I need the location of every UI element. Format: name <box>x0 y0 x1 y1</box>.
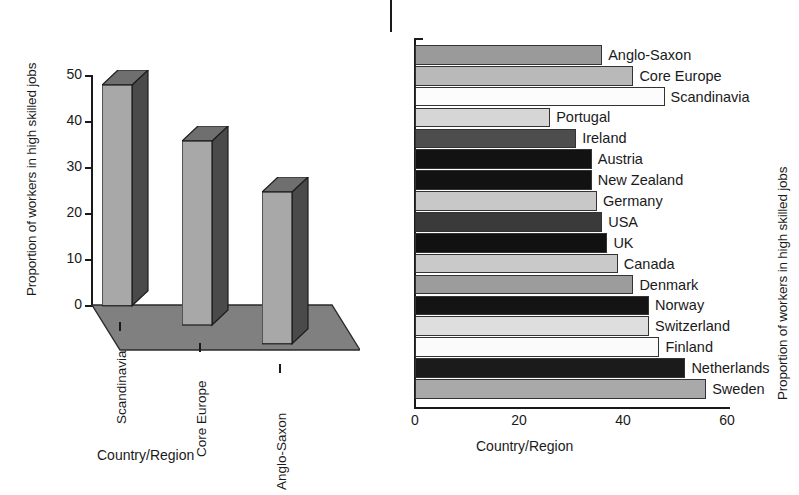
left-chart-category-label: Core Europe <box>194 380 209 457</box>
right-chart-bar <box>415 170 592 190</box>
left-bar-chart-3d: Proportion of workers in high skilled jo… <box>0 0 390 495</box>
right-chart-bar-label: Denmark <box>635 276 698 292</box>
right-chart-bar-label: Canada <box>620 255 675 271</box>
right-chart-bar <box>415 316 649 336</box>
right-chart-bar-label: Anglo-Saxon <box>604 47 691 63</box>
left-chart-bar-front-face <box>262 192 292 344</box>
left-chart-y-tick-mark <box>85 121 93 123</box>
right-chart-bar <box>415 337 659 357</box>
figure-canvas: Proportion of workers in high skilled jo… <box>0 0 799 495</box>
left-chart-x-axis-title: Country/Region <box>97 447 194 463</box>
left-chart-y-tick-label: 50 <box>40 66 82 82</box>
right-chart-bar-label: Portugal <box>552 109 610 125</box>
left-chart-y-tick-label: 10 <box>40 250 82 266</box>
right-chart-bar-row: Scandinavia <box>415 87 795 107</box>
right-chart-bar-row: Switzerland <box>415 316 795 336</box>
left-chart-bar-shape <box>102 70 150 308</box>
right-chart-bar-row: USA <box>415 212 795 232</box>
left-chart-y-tick-label: 40 <box>40 112 82 128</box>
right-chart-bar-row: Finland <box>415 337 795 357</box>
right-chart-bar-row: New Zealand <box>415 170 795 190</box>
right-chart-bar <box>415 254 618 274</box>
right-chart-bar <box>415 275 633 295</box>
right-chart-bar-row: Portugal <box>415 108 795 128</box>
right-chart-bar-label: Sweden <box>708 381 764 397</box>
right-chart-bar <box>415 358 685 378</box>
right-chart-x-tick-label: 60 <box>719 412 735 428</box>
right-chart-bar <box>415 87 665 107</box>
right-chart-bar-row: Norway <box>415 296 795 316</box>
right-chart-bar-row: Sweden <box>415 379 795 399</box>
right-chart-bar-label: Switzerland <box>651 318 730 334</box>
left-chart-y-tick-label: 20 <box>40 204 82 220</box>
right-chart-bar-label: Ireland <box>578 130 626 146</box>
right-chart-x-tick-mark <box>390 8 392 16</box>
right-chart-bar-label: Netherlands <box>687 360 769 376</box>
right-chart-bar <box>415 379 706 399</box>
right-chart-x-tick-label: 20 <box>511 412 527 428</box>
right-chart-bar <box>415 108 550 128</box>
left-chart-y-axis-line <box>91 75 93 307</box>
right-chart-bar-label: New Zealand <box>594 172 683 188</box>
right-chart-bar-row: Canada <box>415 254 795 274</box>
left-chart-bar-side-face <box>292 177 308 344</box>
right-chart-bar <box>415 129 576 149</box>
left-chart-category-label: Anglo-Saxon <box>274 413 289 490</box>
left-chart-x-tick-mark <box>279 364 281 373</box>
right-chart-bar-row: Germany <box>415 191 795 211</box>
left-chart-bar-front-face <box>182 141 212 325</box>
left-chart-bar-shape <box>182 126 230 327</box>
right-chart-bar-label: Finland <box>661 339 713 355</box>
left-chart-bar-shape <box>262 177 310 346</box>
right-chart-bar-row: Core Europe <box>415 66 795 86</box>
left-chart-category-label: Scandinavia <box>114 350 129 424</box>
right-chart-bar-row: Denmark <box>415 275 795 295</box>
right-chart-bar <box>415 296 649 316</box>
right-chart-bar-row: Ireland <box>415 129 795 149</box>
left-chart-y-tick-mark <box>85 167 93 169</box>
left-chart-bar-front-face <box>102 85 132 306</box>
right-chart-y-axis-cap <box>414 38 423 40</box>
right-chart-x-tick-mark <box>390 0 392 8</box>
right-chart-bar-row: Austria <box>415 149 795 169</box>
left-chart-y-tick-mark <box>85 213 93 215</box>
right-chart-x-tick-mark <box>390 24 392 32</box>
left-chart-y-tick-label: 30 <box>40 158 82 174</box>
left-chart-bar <box>102 70 150 308</box>
right-chart-bar <box>415 45 602 65</box>
left-chart-y-axis-title: Proportion of workers in high skilled jo… <box>24 63 39 296</box>
right-chart-bar-row: UK <box>415 233 795 253</box>
right-chart-bar-row: Netherlands <box>415 358 795 378</box>
right-chart-x-ticks: 0204060 <box>390 0 799 32</box>
right-chart-bar-label: Norway <box>651 297 704 313</box>
left-chart-x-tick-mark <box>119 322 121 331</box>
right-chart-bar <box>415 149 592 169</box>
right-chart-x-tick-label: 0 <box>411 412 419 428</box>
right-chart-x-axis-line <box>414 407 730 409</box>
left-chart-bar-side-face <box>132 70 148 306</box>
left-chart-bar <box>182 126 230 327</box>
right-chart-bar-row: Anglo-Saxon <box>415 45 795 65</box>
left-chart-x-tick-mark <box>199 343 201 352</box>
right-chart-bar <box>415 233 607 253</box>
right-chart-bar-label: Austria <box>594 151 643 167</box>
left-chart-y-tick-mark <box>85 259 93 261</box>
right-chart-bar <box>415 66 633 86</box>
left-chart-y-tick-mark <box>85 75 93 77</box>
right-chart-bar-label: Core Europe <box>635 67 721 83</box>
right-chart-bar <box>415 212 602 232</box>
right-chart-x-tick-mark <box>390 16 392 24</box>
right-chart-bar-label: USA <box>604 214 638 230</box>
right-chart-x-axis-title: Country/Region <box>476 438 573 454</box>
right-chart-bar-label: Germany <box>599 193 663 209</box>
right-bar-chart: Proportion of workers in high skilled jo… <box>390 0 799 495</box>
right-chart-bar-label: UK <box>609 234 633 250</box>
right-chart-bar <box>415 191 597 211</box>
left-chart-bar-side-face <box>212 126 228 325</box>
right-chart-x-tick-label: 40 <box>615 412 631 428</box>
right-chart-bar-label: Scandinavia <box>667 88 750 104</box>
left-chart-bar <box>262 177 310 346</box>
